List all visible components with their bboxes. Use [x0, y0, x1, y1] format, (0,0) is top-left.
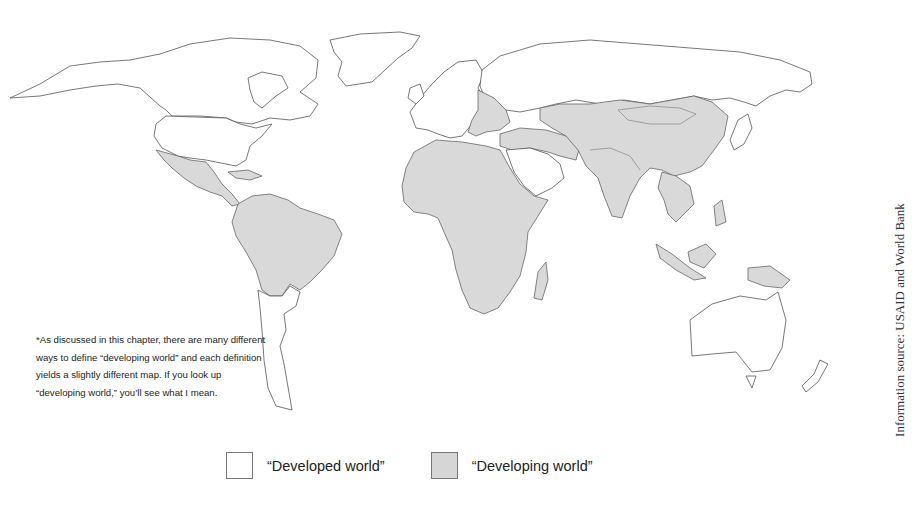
region-australia: [690, 292, 786, 372]
developed-swatch: [226, 452, 253, 479]
region-japan: [730, 114, 752, 150]
legend-label-developing: “Developing world”: [472, 458, 593, 474]
region-papua: [748, 266, 790, 288]
legend-label-developed: “Developed world”: [267, 458, 385, 474]
footnote: *As discussed in this chapter, there are…: [36, 331, 266, 401]
region-tasmania: [746, 376, 756, 388]
region-greenland: [330, 32, 420, 86]
region-southeast-asia: [658, 172, 694, 222]
developing-swatch: [431, 452, 458, 479]
region-indonesia: [656, 244, 716, 280]
region-south-america: [232, 194, 342, 296]
region-russia: [480, 40, 812, 112]
legend-item-developed: “Developed world”: [226, 452, 385, 479]
source-credit: Information source: USAID and World Bank: [892, 203, 908, 437]
region-madagascar: [534, 262, 548, 300]
region-caribbean: [228, 170, 262, 180]
region-new-zealand: [802, 360, 828, 392]
legend: “Developed world” “Developing world”: [226, 452, 639, 479]
region-philippines: [714, 200, 726, 226]
legend-item-developing: “Developing world”: [431, 452, 593, 479]
